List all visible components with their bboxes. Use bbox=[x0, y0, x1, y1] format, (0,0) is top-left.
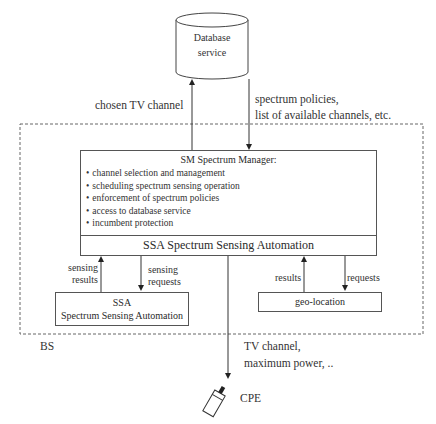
database-label-line2: service bbox=[176, 45, 248, 60]
sm-item: access to database service bbox=[86, 205, 240, 218]
sm-divider bbox=[81, 235, 376, 236]
cpe-device-icon bbox=[203, 384, 229, 417]
database-service: Database service bbox=[176, 30, 248, 60]
ssa-box-title: SSA bbox=[56, 296, 188, 309]
geo-results-label: results bbox=[275, 271, 301, 284]
sm-item: enforcement of spectrum policies bbox=[86, 192, 240, 205]
geo-location-label: geo-location bbox=[295, 296, 345, 307]
sensing-requests-label: sensing requests bbox=[148, 264, 181, 288]
sensing-results-label: sensing results bbox=[63, 262, 98, 286]
geo-location-box: geo-location bbox=[258, 292, 382, 312]
ssa-footer: SSA Spectrum Sensing Automation bbox=[81, 238, 376, 253]
available-channels-label: list of available channels, etc. bbox=[255, 107, 391, 123]
spectrum-policies-label: spectrum policies, bbox=[255, 91, 339, 107]
geo-requests-label: requests bbox=[347, 271, 380, 284]
tv-channel-label: TV channel, bbox=[244, 338, 301, 354]
sensing-results-line1: sensing bbox=[63, 262, 98, 274]
database-label-line1: Database bbox=[176, 30, 248, 45]
cpe-label: CPE bbox=[240, 390, 261, 406]
ssa-box-subtitle: Spectrum Sensing Automation bbox=[56, 309, 188, 322]
sensing-results-line2: results bbox=[63, 274, 98, 286]
spectrum-manager-box: SM Spectrum Manager: channel selection a… bbox=[80, 150, 377, 256]
sm-item: scheduling spectrum sensing operation bbox=[86, 180, 240, 193]
sensing-requests-line1: sensing bbox=[148, 264, 181, 276]
bs-label: BS bbox=[40, 338, 54, 354]
sensing-requests-line2: requests bbox=[148, 276, 181, 288]
sm-item: channel selection and management bbox=[86, 167, 240, 180]
ssa-box: SSA Spectrum Sensing Automation bbox=[55, 292, 189, 326]
sm-item: incumbent protection bbox=[86, 217, 240, 230]
maximum-power-label: maximum power, .. bbox=[244, 355, 333, 371]
chosen-tv-channel-label: chosen TV channel bbox=[95, 97, 183, 113]
sm-title: SM Spectrum Manager: bbox=[81, 154, 376, 166]
sm-function-list: channel selection and management schedul… bbox=[86, 167, 240, 230]
